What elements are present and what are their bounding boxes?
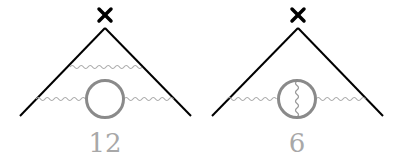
photon-line-upper [70,66,142,69]
feynman-diagrams-canvas [0,0,401,160]
cross-vertex-icon [99,9,111,21]
diagram-left [20,9,191,118]
photon-line-left [227,98,277,101]
diagram-right [212,9,383,118]
fermion-lines [212,28,383,116]
diagram-right-count-label: 6 [289,130,306,156]
fermion-loop [87,81,124,118]
photon-line-internal [296,81,299,117]
photon-line-lower-right [124,98,174,101]
cross-vertex-icon [292,9,304,21]
photon-line-right [316,98,366,101]
fermion-lines [20,28,191,116]
diagram-left-count-label: 12 [88,130,121,156]
photon-line-lower-left [36,98,86,101]
